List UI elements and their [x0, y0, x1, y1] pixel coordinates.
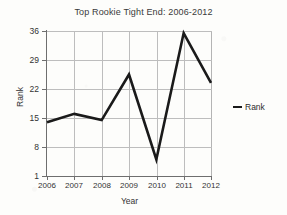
line-marker-icon — [233, 106, 242, 109]
chart-legend: Rank — [233, 102, 265, 112]
chart-container: Top Rookie Tight End: 2006-2012 36 29 22… — [0, 0, 287, 215]
data-line-rank — [47, 33, 211, 159]
legend-label-rank: Rank — [245, 102, 265, 112]
